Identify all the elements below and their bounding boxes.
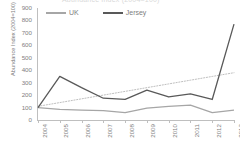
- y-tick-label: 400: [8, 67, 32, 73]
- chart-title: Abundance Index (2004=100): [62, 0, 160, 3]
- x-tick-label: 2006: [84, 124, 91, 150]
- x-tick-mark: [234, 120, 235, 123]
- x-tick-label: 2011: [193, 124, 200, 150]
- x-tick-label: 2012: [215, 124, 222, 150]
- x-tick-mark: [169, 120, 170, 123]
- legend-label-uk: UK: [69, 9, 79, 17]
- y-tick-label: 100: [8, 105, 32, 111]
- chart-legend: UK Jersey: [46, 9, 146, 17]
- x-tick-label: 2010: [171, 124, 178, 150]
- legend-item-jersey[interactable]: Jersey: [103, 9, 147, 17]
- x-tick-mark: [82, 120, 83, 123]
- x-tick-label: 2005: [62, 124, 69, 150]
- y-tick-label: 700: [8, 30, 32, 36]
- x-tick-mark: [38, 120, 39, 123]
- x-tick-label: 2009: [149, 124, 156, 150]
- uk-series-line: [38, 105, 234, 112]
- series-canvas: [38, 8, 234, 120]
- legend-swatch-jersey: [103, 12, 123, 14]
- y-tick-label: 500: [8, 55, 32, 61]
- y-tick-label: 800: [8, 17, 32, 23]
- legend-swatch-uk: [46, 12, 66, 14]
- y-tick-label: 200: [8, 92, 32, 98]
- y-tick-label: 0: [8, 117, 32, 123]
- legend-label-jersey: Jersey: [126, 9, 147, 17]
- trendline-series: [38, 73, 234, 107]
- chart-title-clipped: Abundance Index (2004=100): [0, 0, 240, 7]
- x-axis-tick-labels: 2004200520062007200820092010201120122013: [38, 124, 234, 151]
- y-tick-label: 300: [8, 80, 32, 86]
- y-tick-label: 600: [8, 42, 32, 48]
- x-tick-mark: [212, 120, 213, 123]
- x-tick-label: 2013: [237, 124, 241, 150]
- x-tick-label: 2008: [128, 124, 135, 150]
- x-tick-mark: [60, 120, 61, 123]
- legend-item-uk[interactable]: UK: [46, 9, 79, 17]
- x-tick-mark: [147, 120, 148, 123]
- x-tick-mark: [190, 120, 191, 123]
- plot-area: [38, 8, 234, 120]
- jersey-series-line: [38, 24, 234, 107]
- x-tick-mark: [103, 120, 104, 123]
- y-axis-tick-labels: 9008007006005004003002001000: [8, 0, 32, 151]
- x-tick-label: 2004: [41, 124, 48, 150]
- x-tick-label: 2007: [106, 124, 113, 150]
- y-tick-label: 900: [8, 5, 32, 11]
- abundance-index-line-chart: Abundance Index (2004=100) Abundance Ind…: [0, 0, 240, 151]
- x-tick-mark: [125, 120, 126, 123]
